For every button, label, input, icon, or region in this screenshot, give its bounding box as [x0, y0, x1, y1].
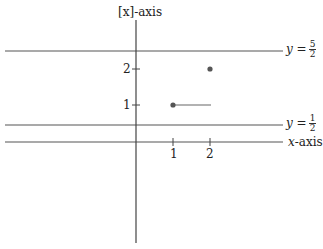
closed-point-2-2: [207, 66, 212, 71]
line-top-label: y =52: [286, 40, 316, 59]
x-axis-label: x-axis: [288, 136, 323, 148]
x-tick-label-1: 1: [170, 148, 178, 160]
y-tick-label-2: 2: [123, 63, 131, 75]
y-tick-label-1: 1: [123, 99, 131, 111]
x-tick-label-2: 2: [206, 148, 214, 160]
line-bottom-label: y =12: [286, 114, 316, 133]
y-axis-label: [x]-axis: [118, 6, 162, 18]
closed-point-1-1: [170, 102, 175, 107]
